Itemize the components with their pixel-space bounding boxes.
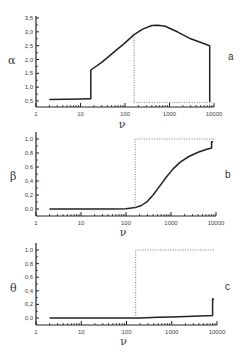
y-tick-label: 0,5 [25, 98, 34, 104]
panel-c: 0,00,20,40,60,81,0110100100010000θνc [10, 243, 230, 348]
dotted-series-line [135, 139, 214, 208]
y-tick-label: 0,0 [25, 206, 34, 212]
y-tick-label: 0,8 [25, 261, 34, 267]
y-tick-label: 0,6 [25, 164, 34, 170]
panel-b: 0,00,20,40,60,81,0110100100010000βνb [10, 132, 231, 239]
x-axis-label: ν [120, 335, 127, 348]
x-tick-label: 1000 [164, 220, 178, 226]
y-tick-label: 0,0 [25, 315, 34, 321]
x-tick-label: 10000 [208, 220, 225, 226]
solid-series-line [49, 25, 210, 101]
y-tick-label: 1,0 [25, 136, 34, 142]
y-tick-label: 0,2 [25, 192, 34, 198]
x-tick-label: 10000 [209, 329, 226, 335]
y-tick-label: 3,0 [25, 29, 34, 35]
x-tick-label: 100 [120, 111, 131, 117]
solid-series-line [50, 142, 214, 209]
x-tick-label: 1000 [165, 329, 179, 335]
x-axis-label: ν [119, 118, 126, 131]
x-tick-label: 10 [77, 111, 84, 117]
x-tick-label: 1000 [163, 111, 177, 117]
panel-letter: a [228, 51, 234, 62]
panel-a: 0,51,01,52,02,53,03,5110100100010000ανa [8, 15, 234, 131]
dotted-series-line [134, 37, 212, 102]
y-tick-label: 1,0 [25, 247, 34, 253]
y-tick-label: 0,4 [25, 178, 34, 184]
dotted-series-line [136, 250, 215, 318]
figure: 0,51,01,52,02,53,03,5110100100010000ανa … [0, 0, 240, 357]
x-tick-label: 1 [34, 220, 38, 226]
panel-letter: b [225, 169, 231, 180]
x-tick-label: 10 [78, 329, 85, 335]
x-axis-label: ν [120, 226, 127, 239]
y-tick-label: 3,5 [25, 15, 34, 21]
y-tick-label: 0,4 [25, 288, 34, 294]
x-tick-label: 1 [34, 329, 38, 335]
y-tick-label: 1,0 [25, 84, 34, 90]
panel-letter: c [225, 281, 230, 292]
solid-series-line [50, 299, 214, 318]
y-tick-label: 2,0 [25, 57, 34, 63]
x-tick-label: 10000 [206, 111, 223, 117]
x-tick-label: 10 [78, 220, 85, 226]
y-axis-label: β [10, 170, 16, 183]
y-axis-label: θ [10, 282, 17, 295]
y-axis-label: α [8, 54, 16, 67]
x-tick-label: 1 [34, 111, 38, 117]
y-tick-label: 0,6 [25, 274, 34, 280]
y-tick-label: 1,5 [25, 70, 34, 76]
y-tick-label: 2,5 [25, 43, 34, 49]
y-tick-label: 0,8 [25, 150, 34, 156]
y-tick-label: 0,2 [25, 301, 34, 307]
chart-canvas: 0,51,01,52,02,53,03,5110100100010000ανa … [0, 0, 240, 357]
